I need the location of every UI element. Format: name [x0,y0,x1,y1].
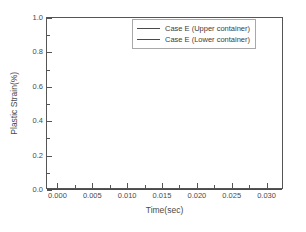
legend-line-swatch [137,39,160,40]
y-tick-label: 0.2 [33,152,43,160]
y-tick-label: 0.6 [33,83,43,91]
y-tick-minor [47,173,50,174]
x-tick-label: 0.000 [48,192,67,200]
x-tick-major [267,183,268,188]
x-tick-label: 0.025 [222,192,241,200]
x-tick-major [232,183,233,188]
y-tick-minor [47,138,50,139]
x-tick-minor [145,185,146,188]
x-tick-minor [249,185,250,188]
x-tick-label: 0.015 [153,192,172,200]
x-tick-minor [75,185,76,188]
x-tick-label: 0.030 [257,192,276,200]
legend-label: Case E (Upper container) [165,25,250,33]
x-tick-major [162,183,163,188]
x-tick-major [127,183,128,188]
y-tick-major [47,156,52,157]
y-tick-major [47,121,52,122]
legend-label: Case E (Lower container) [165,36,250,44]
legend-line-swatch [137,28,160,29]
y-axis-title-text: Plastic Strain(%) [10,72,19,135]
x-axis-title-text: Time(sec) [146,205,183,215]
y-tick-major [47,87,52,88]
x-tick-label: 0.005 [83,192,102,200]
x-axis-title: Time(sec) [46,206,283,215]
chart-legend: Case E (Upper container)Case E (Lower co… [132,19,256,49]
y-axis-title: Plastic Strain(%) [8,17,20,189]
x-tick-label: 0.020 [187,192,206,200]
y-tick-major [47,18,52,19]
y-tick-minor [47,35,50,36]
series-line [47,189,282,190]
y-tick-minor [47,104,50,105]
y-tick-label: 0.8 [33,49,43,57]
x-tick-minor [214,185,215,188]
x-tick-label: 0.010 [118,192,137,200]
x-tick-major [57,183,58,188]
x-tick-major [197,183,198,188]
x-tick-minor [179,185,180,188]
y-tick-label: 0.0 [33,186,43,194]
y-tick-major [47,52,52,53]
x-tick-minor [110,185,111,188]
y-tick-label: 1.0 [33,14,43,22]
x-tick-major [92,183,93,188]
chart-figure: Plastic Strain(%) 0.00.20.40.60.81.0 0.0… [0,0,306,232]
legend-entry: Case E (Upper container) [137,23,250,34]
legend-entry: Case E (Lower container) [137,34,250,45]
y-tick-minor [47,70,50,71]
y-tick-label: 0.4 [33,117,43,125]
